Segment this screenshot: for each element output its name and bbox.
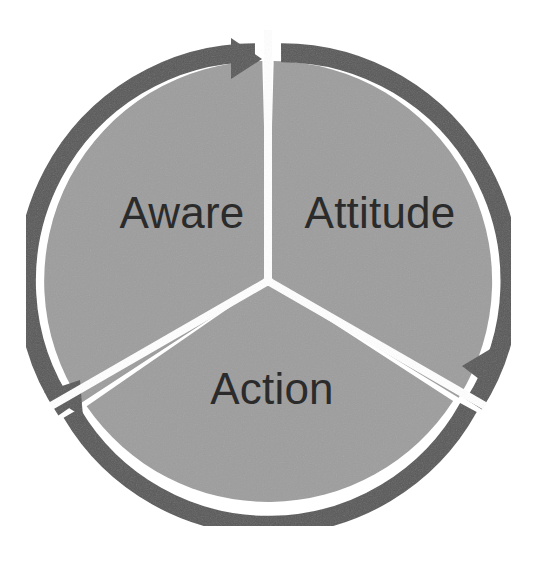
cycle-diagram-canvas: Aware Attitude Action	[0, 0, 549, 562]
segment-label-action: Action	[210, 364, 334, 413]
segment-label-aware: Aware	[120, 188, 245, 237]
cycle-diagram: Aware Attitude Action	[0, 0, 549, 562]
divider-hub	[263, 276, 273, 286]
segment-label-attitude: Attitude	[305, 188, 456, 237]
